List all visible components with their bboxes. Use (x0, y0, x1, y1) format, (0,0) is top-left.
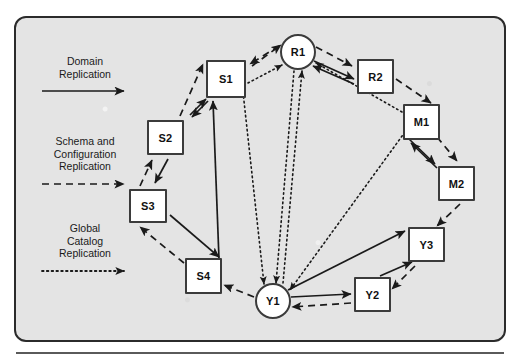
node-y3[interactable]: Y3 (408, 227, 445, 262)
bottom-divider (16, 352, 504, 354)
dashed-arrow-icon (20, 178, 150, 190)
node-r1[interactable]: R1 (280, 34, 316, 70)
legend-label-domain-replication: Domain Replication (20, 55, 150, 80)
solid-arrow-icon (20, 85, 150, 97)
node-s2[interactable]: S2 (147, 120, 184, 155)
legend-item-schema-configuration-replication: Schema and Configuration Replication (20, 135, 150, 190)
node-s1[interactable]: S1 (206, 60, 246, 98)
legend-label-global-catalog-replication: Global Catalog Replication (20, 222, 150, 260)
dotted-arrow-icon (20, 265, 150, 277)
node-m2[interactable]: M2 (438, 166, 475, 201)
diagram-root: Domain Replication Schema and Configurat… (0, 0, 520, 360)
node-s3[interactable]: S3 (129, 189, 167, 223)
node-r2[interactable]: R2 (357, 59, 394, 94)
node-m1[interactable]: M1 (403, 104, 440, 140)
legend-label-schema-configuration-replication: Schema and Configuration Replication (20, 135, 150, 173)
node-y2[interactable]: Y2 (354, 277, 391, 312)
legend-item-domain-replication: Domain Replication (20, 55, 150, 97)
node-s4[interactable]: S4 (185, 258, 222, 294)
node-y1[interactable]: Y1 (255, 283, 291, 319)
legend-item-global-catalog-replication: Global Catalog Replication (20, 222, 150, 277)
